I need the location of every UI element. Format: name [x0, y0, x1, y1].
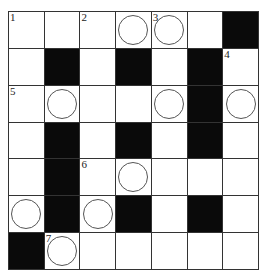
answer-cell[interactable] — [116, 233, 151, 269]
answer-cell[interactable] — [223, 123, 258, 159]
answer-cell[interactable] — [152, 123, 187, 159]
black-square — [45, 49, 80, 85]
answer-cell[interactable]: 2 — [80, 12, 115, 48]
circle-icon — [118, 15, 148, 45]
clue-number: 3 — [153, 12, 159, 23]
circle-icon — [226, 89, 256, 119]
circle-icon — [83, 199, 113, 229]
answer-cell[interactable] — [223, 233, 258, 269]
black-square — [223, 12, 258, 48]
black-square — [116, 123, 151, 159]
circled-cell[interactable] — [116, 12, 151, 48]
clue-number: 4 — [224, 49, 230, 60]
answer-cell[interactable] — [152, 49, 187, 85]
black-square — [188, 49, 223, 85]
answer-cell[interactable]: 1 — [9, 12, 44, 48]
black-square — [188, 196, 223, 232]
black-square — [116, 49, 151, 85]
answer-cell[interactable] — [80, 233, 115, 269]
answer-cell[interactable] — [45, 12, 80, 48]
circle-icon — [154, 89, 184, 119]
crossword-grid: 1234567 — [8, 11, 259, 270]
circled-cell[interactable]: 7 — [45, 233, 80, 269]
answer-cell[interactable] — [9, 159, 44, 195]
circled-cell[interactable] — [80, 196, 115, 232]
circled-cell[interactable] — [9, 196, 44, 232]
circle-icon — [47, 89, 77, 119]
answer-cell[interactable] — [80, 86, 115, 122]
answer-cell[interactable] — [188, 159, 223, 195]
circle-icon — [118, 162, 148, 192]
black-square — [9, 233, 44, 269]
clue-number: 2 — [81, 12, 87, 23]
circled-cell[interactable] — [223, 86, 258, 122]
black-square — [45, 159, 80, 195]
black-square — [45, 123, 80, 159]
clue-number: 7 — [46, 233, 52, 244]
answer-cell[interactable] — [188, 233, 223, 269]
answer-cell[interactable] — [9, 123, 44, 159]
circled-cell[interactable] — [116, 159, 151, 195]
circle-icon — [47, 236, 77, 266]
clue-number: 1 — [10, 12, 16, 23]
circled-cell[interactable] — [152, 86, 187, 122]
answer-cell[interactable] — [223, 196, 258, 232]
circle-icon — [11, 199, 41, 229]
clue-number: 5 — [10, 86, 16, 97]
answer-cell[interactable]: 4 — [223, 49, 258, 85]
black-square — [45, 196, 80, 232]
circled-cell[interactable]: 3 — [152, 12, 187, 48]
answer-cell[interactable] — [116, 86, 151, 122]
answer-cell[interactable]: 6 — [80, 159, 115, 195]
clue-number: 6 — [81, 159, 87, 170]
answer-cell[interactable] — [152, 196, 187, 232]
black-square — [188, 123, 223, 159]
answer-cell[interactable] — [152, 233, 187, 269]
answer-cell[interactable] — [188, 12, 223, 48]
black-square — [188, 86, 223, 122]
black-square — [116, 196, 151, 232]
answer-cell[interactable]: 5 — [9, 86, 44, 122]
answer-cell[interactable] — [80, 49, 115, 85]
circled-cell[interactable] — [45, 86, 80, 122]
answer-cell[interactable] — [223, 159, 258, 195]
answer-cell[interactable] — [152, 159, 187, 195]
answer-cell[interactable] — [80, 123, 115, 159]
answer-cell[interactable] — [9, 49, 44, 85]
circle-icon — [154, 15, 184, 45]
